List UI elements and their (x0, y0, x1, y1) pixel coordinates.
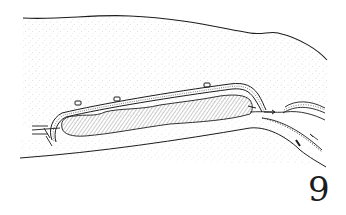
illustration-drawing (0, 0, 346, 215)
surgical-illustration: 9 (0, 0, 346, 215)
figure-number: 9 (308, 172, 330, 206)
